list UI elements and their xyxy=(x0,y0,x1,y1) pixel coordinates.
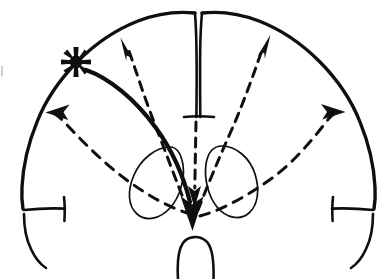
midline-left-lip xyxy=(195,13,197,117)
figure-canvas: Hand-drawn axial (transverse) outline of… xyxy=(0,0,382,279)
right-sylvian-notch-group xyxy=(332,197,373,221)
right-temporal-tail xyxy=(351,214,373,268)
right-notch-tick xyxy=(332,197,333,221)
interhemispheric-fissure-group xyxy=(184,13,214,117)
brainstem-group xyxy=(178,237,214,279)
asterisk-core xyxy=(70,56,83,69)
left-notch-tick xyxy=(64,197,65,221)
arrow-solid-to-center-group xyxy=(86,70,204,231)
arrow-solid-to-center-head xyxy=(181,196,204,231)
brainstem-outline xyxy=(178,237,214,279)
arrow-dashed-center-down-shaft xyxy=(195,122,196,188)
arrow-dashed-upper-right-shaft xyxy=(198,47,263,210)
left-temporal-tail xyxy=(24,214,46,268)
right-deep-nucleus-oval xyxy=(205,146,257,218)
midline-terminal-bar xyxy=(184,116,214,117)
midline-right-lip xyxy=(200,13,202,117)
right-notch-bar xyxy=(332,208,373,210)
arrow-solid-to-center-shaft xyxy=(86,70,190,202)
brain-diagram-svg xyxy=(0,0,382,279)
left-hemisphere-outline xyxy=(22,12,195,209)
right-hemisphere-outline xyxy=(202,12,375,209)
left-notch-bar xyxy=(24,208,65,210)
left-sylvian-notch-group xyxy=(24,197,65,221)
focus-asterisk xyxy=(61,47,91,77)
arrow-dashed-right-lateral-head xyxy=(321,104,346,120)
arrow-dashed-right-lateral-shaft xyxy=(200,113,336,216)
